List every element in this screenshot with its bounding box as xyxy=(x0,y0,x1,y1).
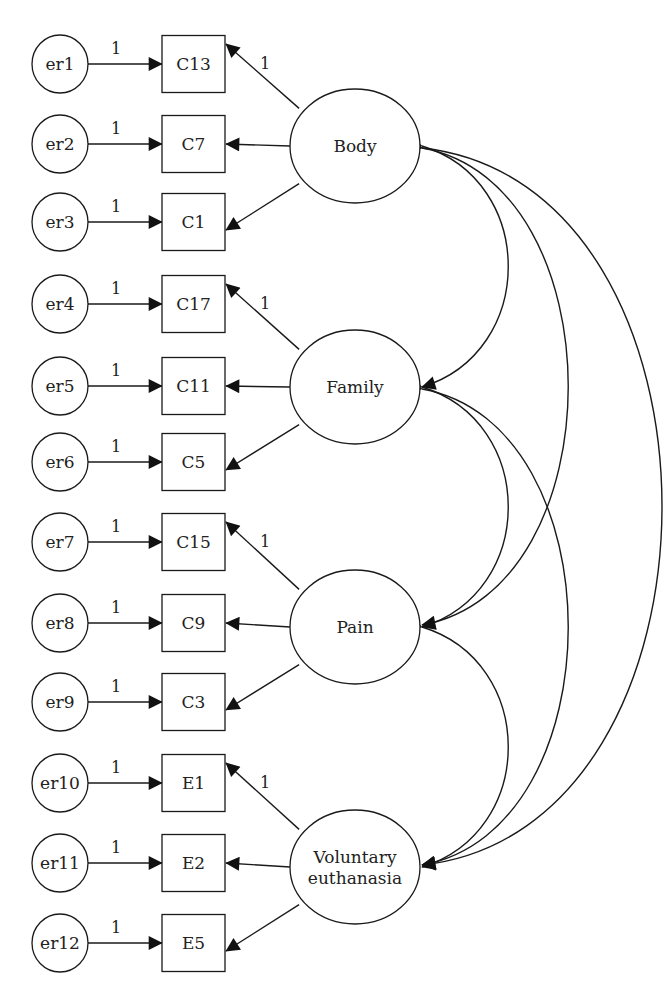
error-label: er2 xyxy=(45,134,74,154)
indicator-label: C13 xyxy=(176,54,211,74)
covariance-arc-body-family xyxy=(422,146,508,387)
covariance-arc-body-voluntary-euthanasia xyxy=(422,148,662,865)
latent-label: Body xyxy=(333,136,377,156)
indicator-label: C3 xyxy=(182,692,206,712)
error-weight-label: 1 xyxy=(111,918,121,937)
error-weight-label: 1 xyxy=(111,437,121,456)
latent-label: Voluntary xyxy=(313,847,397,867)
loading-path-arrow xyxy=(226,184,299,230)
error-weight-label: 1 xyxy=(111,758,121,777)
error-label: er5 xyxy=(45,376,74,396)
indicator-label: C17 xyxy=(176,294,211,314)
indicator-label: C5 xyxy=(182,452,206,472)
covariance-arc-body-pain xyxy=(422,148,568,625)
error-weight-label: 1 xyxy=(111,517,121,536)
sem-diagram: 1111111111111111 Bodyer1C13er2C7er3C1Fam… xyxy=(0,0,672,1008)
loading-path-arrow xyxy=(226,665,299,710)
error-weight-label: 1 xyxy=(111,119,121,138)
error-label: er11 xyxy=(40,853,80,873)
error-label: er4 xyxy=(45,294,74,314)
error-label: er6 xyxy=(45,452,74,472)
loading-weight-label: 1 xyxy=(260,294,270,313)
error-weight-label: 1 xyxy=(111,598,121,617)
indicator-label: C15 xyxy=(176,532,211,552)
latent-label: Family xyxy=(326,377,384,397)
error-weight-label: 1 xyxy=(111,838,121,857)
error-weight-label: 1 xyxy=(111,197,121,216)
latent-label: euthanasia xyxy=(308,868,402,888)
loading-path-arrow xyxy=(226,425,299,470)
indicator-label: C9 xyxy=(182,613,206,633)
indicator-label: C1 xyxy=(182,212,206,232)
error-label: er12 xyxy=(40,933,80,953)
loading-weight-label: 1 xyxy=(260,773,270,792)
error-label: er7 xyxy=(45,532,74,552)
loading-path-arrow xyxy=(226,905,299,951)
error-label: er8 xyxy=(45,613,74,633)
loading-path-arrow xyxy=(226,144,290,146)
indicator-label: E2 xyxy=(182,853,205,873)
loading-path-arrow xyxy=(226,863,290,867)
loading-path-arrow xyxy=(226,386,290,387)
covariance-arc-family-voluntary-euthanasia xyxy=(422,389,568,865)
covariance-layer xyxy=(422,146,662,867)
node-layer: Bodyer1C13er2C7er3C1Familyer4C17er5C11er… xyxy=(32,35,420,972)
error-label: er9 xyxy=(45,692,74,712)
error-weight-label: 1 xyxy=(111,677,121,696)
error-weight-label: 1 xyxy=(111,361,121,380)
loading-path-arrow xyxy=(226,623,290,627)
loading-weight-label: 1 xyxy=(260,532,270,551)
indicator-label: C11 xyxy=(176,376,211,396)
covariance-arc-pain-voluntary-euthanasia xyxy=(422,627,508,867)
error-weight-label: 1 xyxy=(111,39,121,58)
latent-label: Pain xyxy=(336,617,373,637)
error-label: er10 xyxy=(40,773,80,793)
indicator-label: C7 xyxy=(182,134,206,154)
edge-layer: 1111111111111111 xyxy=(88,39,299,951)
error-label: er3 xyxy=(45,212,74,232)
indicator-label: E1 xyxy=(182,773,205,793)
loading-weight-label: 1 xyxy=(260,54,270,73)
error-weight-label: 1 xyxy=(111,279,121,298)
error-label: er1 xyxy=(45,54,74,74)
covariance-arc-family-pain xyxy=(422,387,508,627)
indicator-label: E5 xyxy=(182,933,205,953)
